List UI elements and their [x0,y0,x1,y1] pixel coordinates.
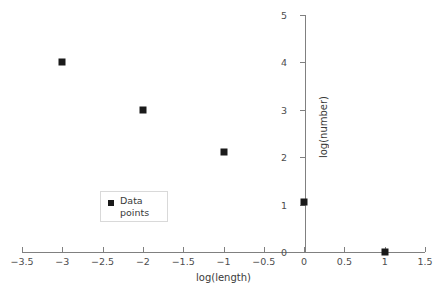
data-point-marker [139,106,146,113]
x-tick-label: 1.5 [417,256,432,267]
x-tick-mark [224,247,225,252]
data-point-marker [220,149,227,156]
x-tick-mark [103,247,104,252]
x-tick-mark [62,247,63,252]
x-tick-mark [143,247,144,252]
x-tick-label: −3.5 [10,256,33,267]
y-tick-mark [300,15,305,16]
x-tick-mark [22,247,23,252]
y-tick-mark [300,252,305,253]
y-tick-mark [300,62,305,63]
x-tick-label: −1 [216,256,230,267]
legend-marker-icon [108,200,114,206]
data-point-marker [59,59,66,66]
x-tick-mark [183,247,184,252]
scatter-plot-figure: −3.5−3−2.5−2−1.5−1−0.500.511.5 012345 Da… [0,0,447,294]
y-tick-mark [300,157,305,158]
y-tick-label: 0 [281,247,287,258]
y-tick-label: 2 [281,152,287,163]
data-point-marker [301,199,308,206]
x-axis-line [22,252,425,253]
x-tick-label: −2 [136,256,150,267]
x-tick-label: −0.5 [252,256,275,267]
y-tick-mark [300,110,305,111]
y-axis-title: log(number) [318,96,329,158]
y-tick-label: 4 [281,57,287,68]
x-tick-mark [425,247,426,252]
y-tick-label: 1 [281,199,287,210]
legend-label: Data points [120,195,165,219]
legend-box: Data points [100,191,168,222]
x-tick-mark [264,247,265,252]
y-axis-line [305,15,306,253]
x-tick-mark [344,247,345,252]
x-tick-label: 1 [382,256,388,267]
x-tick-label: −3 [55,256,69,267]
legend-label-line1: Data [120,195,143,206]
legend-label-line2: points [120,207,149,218]
data-point-marker [381,249,388,256]
x-tick-label: −1.5 [172,256,195,267]
x-axis-title: log(length) [0,272,447,283]
y-tick-label: 3 [281,104,287,115]
y-tick-label: 5 [281,10,287,21]
x-tick-label: 0.5 [337,256,352,267]
x-tick-label: 0 [301,256,307,267]
x-tick-label: −2.5 [91,256,114,267]
